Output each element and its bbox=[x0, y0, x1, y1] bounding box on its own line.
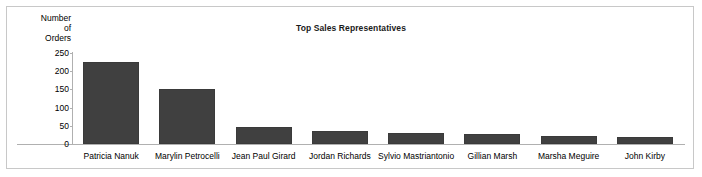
y-axis-title-line-3: Orders bbox=[15, 33, 71, 43]
y-axis-tick-label: 50 bbox=[60, 121, 69, 130]
bar-group: Marylin Petrocelli bbox=[149, 53, 225, 144]
bar-group: Marsha Meguire bbox=[531, 53, 607, 144]
chart-frame: Number of Orders Top Sales Representativ… bbox=[6, 6, 694, 169]
bar[interactable] bbox=[236, 127, 292, 144]
plot-area: 050100150200250Patricia NanukMarylin Pet… bbox=[73, 53, 683, 144]
bar-group: Sylvio Mastriantonio bbox=[378, 53, 454, 144]
x-axis-category-label: Jean Paul Girard bbox=[232, 151, 296, 161]
bar[interactable] bbox=[159, 89, 215, 144]
bar-group: Gillian Marsh bbox=[454, 53, 530, 144]
x-axis-category-label: Jordan Richards bbox=[309, 151, 371, 161]
y-axis-tick-label: 0 bbox=[64, 140, 69, 149]
bar-group: John Kirby bbox=[607, 53, 683, 144]
chart-title: Top Sales Representatives bbox=[7, 23, 695, 33]
y-axis-tick-label: 100 bbox=[55, 103, 69, 112]
bar[interactable] bbox=[617, 137, 673, 144]
bar[interactable] bbox=[312, 131, 368, 144]
x-axis-category-label: Gillian Marsh bbox=[468, 151, 518, 161]
x-axis-category-label: Marsha Meguire bbox=[538, 151, 599, 161]
y-axis-tick-label: 200 bbox=[55, 67, 69, 76]
y-axis-tick-label: 150 bbox=[55, 85, 69, 94]
bar[interactable] bbox=[83, 62, 139, 144]
x-axis-category-label: Marylin Petrocelli bbox=[155, 151, 220, 161]
y-axis-tick-label: 250 bbox=[55, 49, 69, 58]
bar-group: Jordan Richards bbox=[302, 53, 378, 144]
x-axis-category-label: Patricia Nanuk bbox=[83, 151, 138, 161]
bar[interactable] bbox=[388, 133, 444, 144]
bar[interactable] bbox=[541, 136, 597, 144]
bar-group: Patricia Nanuk bbox=[73, 53, 149, 144]
x-axis-line bbox=[17, 144, 685, 145]
bar[interactable] bbox=[464, 134, 520, 144]
y-axis-title-line-1: Number bbox=[15, 13, 71, 23]
x-axis-category-label: Sylvio Mastriantonio bbox=[378, 151, 454, 161]
bar-group: Jean Paul Girard bbox=[226, 53, 302, 144]
y-axis-tick-mark bbox=[70, 144, 73, 145]
x-axis-category-label: John Kirby bbox=[625, 151, 665, 161]
